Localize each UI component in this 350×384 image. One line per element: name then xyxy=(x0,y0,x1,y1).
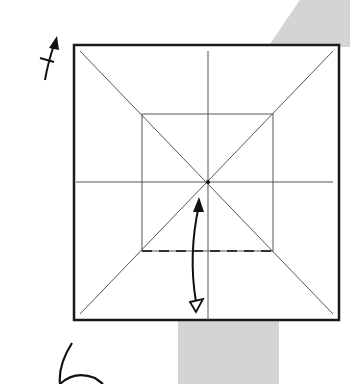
gray-band-top xyxy=(268,0,350,47)
turn-over-arrow-icon xyxy=(40,36,59,80)
center-point xyxy=(206,180,210,184)
origami-diagram xyxy=(0,0,350,384)
step-number-6 xyxy=(60,343,103,384)
